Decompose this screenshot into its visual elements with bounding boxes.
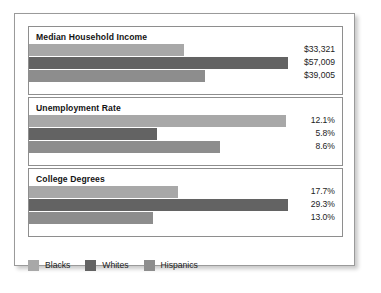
bar-whites: [29, 57, 288, 69]
bar-row: $57,009: [29, 57, 342, 69]
legend-label: Hispanics: [161, 260, 198, 270]
bar-row: 12.1%: [29, 115, 342, 127]
legend-item-hispanics: Hispanics: [144, 260, 198, 271]
legend-label: Whites: [102, 260, 128, 270]
bar-blacks: [29, 115, 286, 127]
bar-value-whites: 5.8%: [272, 127, 342, 140]
bar-blacks: [29, 186, 178, 198]
bar-whites: [29, 199, 288, 211]
panel-bars: $33,321 $57,009 $39,005: [29, 44, 342, 92]
bar-row: 29.3%: [29, 199, 342, 211]
bar-value-whites: $57,009: [272, 56, 342, 69]
chart-panel-college-degrees: College Degrees 17.7% 29.3% 13.0%: [28, 168, 343, 237]
panel-bars: 17.7% 29.3% 13.0%: [29, 186, 342, 234]
chart-panel-unemployment-rate: Unemployment Rate 12.1% 5.8% 8.6%: [28, 97, 343, 166]
legend-swatch-icon: [28, 260, 39, 271]
bar-whites: [29, 128, 157, 140]
bar-value-hispanics: $39,005: [272, 69, 342, 82]
bar-value-hispanics: 8.6%: [272, 140, 342, 153]
panel-title: Unemployment Rate: [29, 98, 342, 114]
chart-legend: Blacks Whites Hispanics: [28, 257, 343, 273]
bar-row: $33,321: [29, 44, 342, 56]
bar-value-blacks: 12.1%: [272, 114, 342, 127]
panel-title: Median Household Income: [29, 27, 342, 43]
chart-panel-median-household-income: Median Household Income $33,321 $57,009 …: [28, 26, 343, 95]
bar-value-blacks: 17.7%: [272, 185, 342, 198]
bar-value-whites: 29.3%: [272, 198, 342, 211]
bar-hispanics: [29, 212, 153, 224]
bar-row: 13.0%: [29, 212, 342, 224]
legend-swatch-icon: [85, 260, 96, 271]
legend-item-whites: Whites: [85, 260, 128, 271]
bar-row: 17.7%: [29, 186, 342, 198]
bar-value-blacks: $33,321: [272, 43, 342, 56]
panel-title: College Degrees: [29, 169, 342, 185]
legend-label: Blacks: [45, 260, 70, 270]
bar-row: $39,005: [29, 70, 342, 82]
bar-hispanics: [29, 141, 220, 153]
chart-frame: Median Household Income $33,321 $57,009 …: [14, 13, 355, 266]
chart-canvas: Median Household Income $33,321 $57,009 …: [0, 0, 381, 293]
panel-bars: 12.1% 5.8% 8.6%: [29, 115, 342, 163]
bar-value-hispanics: 13.0%: [272, 211, 342, 224]
bar-blacks: [29, 44, 184, 56]
bar-hispanics: [29, 70, 205, 82]
chart-panels-container: Median Household Income $33,321 $57,009 …: [28, 26, 343, 255]
legend-swatch-icon: [144, 260, 155, 271]
legend-item-blacks: Blacks: [28, 260, 70, 271]
bar-row: 5.8%: [29, 128, 342, 140]
bar-row: 8.6%: [29, 141, 342, 153]
